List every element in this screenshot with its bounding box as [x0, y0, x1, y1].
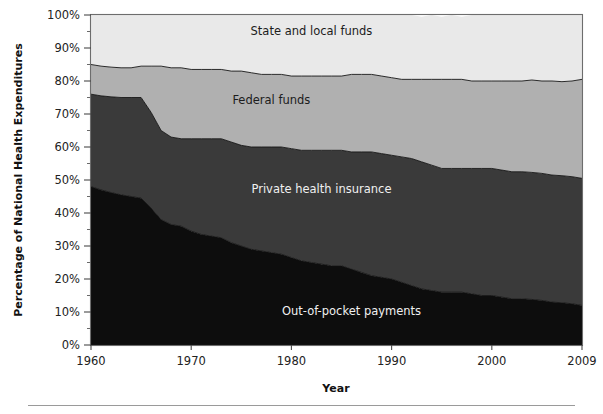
x-tick-label: 1990	[377, 354, 406, 368]
y-tick-label: 90%	[54, 41, 80, 55]
stacked-area-chart: 0%10%20%30%40%50%60%70%80%90%100% 196019…	[0, 0, 603, 414]
y-tick-label: 40%	[54, 206, 80, 220]
x-tick-label: 1980	[277, 354, 306, 368]
chart-figure: 0%10%20%30%40%50%60%70%80%90%100% 196019…	[0, 0, 603, 414]
series-label-federal-funds: Federal funds	[232, 93, 310, 107]
x-tick-label: 1970	[177, 354, 206, 368]
y-tick-label: 80%	[54, 74, 80, 88]
y-tick-label: 30%	[54, 239, 80, 253]
x-axis-title: Year	[321, 382, 350, 395]
x-tick-label: 2009	[567, 354, 596, 368]
y-tick-label: 70%	[54, 107, 80, 121]
y-tick-label: 100%	[47, 8, 80, 22]
series-label-private-health-insurance: Private health insurance	[251, 182, 391, 196]
series-label-state-and-local-funds: State and local funds	[251, 24, 373, 38]
area-series-group	[91, 15, 582, 345]
series-label-out-of-pocket-payments: Out-of-pocket payments	[282, 304, 421, 318]
y-tick-label: 20%	[54, 272, 80, 286]
y-tick-label: 10%	[54, 305, 80, 319]
y-tick-label: 50%	[54, 173, 80, 187]
y-axis-title: Percentage of National Health Expenditur…	[12, 43, 25, 317]
y-tick-label: 0%	[62, 338, 80, 352]
x-tick-label: 2000	[477, 354, 506, 368]
x-tick-label: 1960	[76, 354, 105, 368]
y-tick-label: 60%	[54, 140, 80, 154]
